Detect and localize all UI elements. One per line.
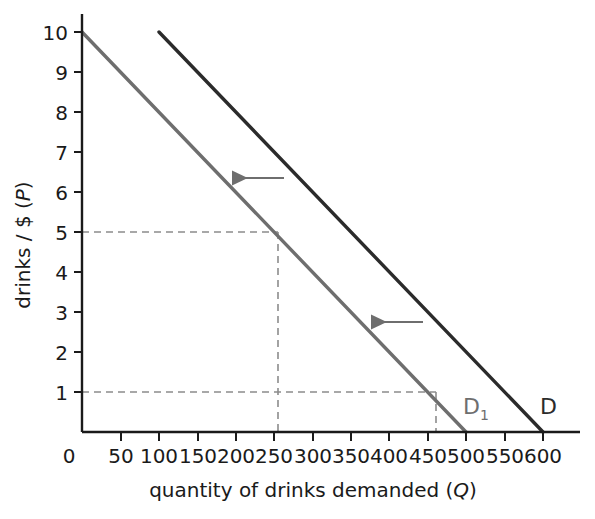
y-tick-label-5: 5 [55, 221, 68, 245]
y-axis-title-variable: P [11, 188, 35, 201]
demand-shift-chart: 10 9 8 7 6 5 4 3 2 1 0 [0, 0, 595, 519]
y-axis-title-close: ) [11, 181, 35, 189]
x-tick-label-100: 100 [140, 444, 178, 468]
x-tick-label-0: 0 [63, 444, 76, 468]
x-tick-label-450: 450 [409, 444, 447, 468]
x-tick-label-300: 300 [294, 444, 332, 468]
curve-label-D: D [540, 394, 557, 419]
x-axis-title: quantity of drinks demanded (Q) [149, 478, 477, 502]
x-tick-label-350: 350 [332, 444, 370, 468]
y-tick-label-1: 1 [55, 381, 68, 405]
x-tick-label-200: 200 [217, 444, 255, 468]
x-tick-label-400: 400 [370, 444, 408, 468]
chart-canvas: 10 9 8 7 6 5 4 3 2 1 0 [0, 0, 595, 519]
curve-label-D1-subscript: 1 [480, 407, 489, 423]
y-tick-label-8: 8 [55, 101, 68, 125]
x-tick-label-550: 550 [486, 444, 524, 468]
y-tick-label-3: 3 [55, 301, 68, 325]
y-tick-label-10: 10 [43, 21, 68, 45]
x-tick-label-500: 500 [447, 444, 485, 468]
curve-label-D1-text: D [463, 394, 480, 419]
x-axis-title-close: ) [469, 478, 477, 502]
x-axis-title-text: quantity of drinks demanded ( [149, 478, 453, 502]
y-axis-title-text: drinks / $ ( [11, 201, 35, 309]
y-tick-label-2: 2 [55, 341, 68, 365]
x-tick-label-150: 150 [179, 444, 217, 468]
y-tick-label-4: 4 [55, 261, 68, 285]
y-tick-label-9: 9 [55, 61, 68, 85]
y-axis-title: drinks / $ (P) [11, 181, 35, 308]
x-axis-title-variable: Q [453, 478, 469, 502]
chart-background [0, 0, 595, 519]
x-tick-label-600: 600 [524, 444, 562, 468]
x-tick-label-50: 50 [108, 444, 133, 468]
y-tick-label-6: 6 [55, 181, 68, 205]
y-tick-label-7: 7 [55, 141, 68, 165]
x-tick-label-250: 250 [255, 444, 293, 468]
